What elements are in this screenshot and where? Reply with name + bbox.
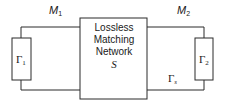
gamma1-label: Γ1 [16,54,26,67]
gamma2-label: Γ2 [199,54,209,67]
matching-network-label: Lossless Matching Network S [80,22,148,70]
port-label-m1-subscript: 1 [58,10,62,17]
port-label-m1: M1 [49,5,62,17]
network-line-1: Lossless [80,22,148,34]
network-line-3: Network [80,46,148,58]
gamma2-subscript: 2 [205,59,209,67]
port-label-m2-subscript: 2 [186,10,190,17]
port-label-m2-text: M [177,4,186,16]
port-label-m1-text: M [49,4,58,16]
left-top-wire [21,27,80,38]
scattering-matrix-symbol: S [80,58,148,70]
gamma-s-label: Γs [168,73,177,86]
gamma-s-subscript: s [174,78,177,86]
port-label-m2: M2 [177,5,190,17]
right-top-wire [147,27,204,38]
gamma1-subscript: 1 [22,59,26,67]
network-line-2: Matching [80,34,148,46]
left-bottom-wire [21,80,80,90]
